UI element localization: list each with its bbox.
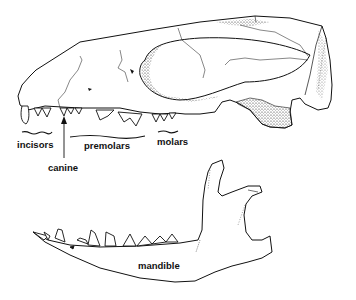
premolars-label: premolars xyxy=(84,141,130,151)
molars-label: molars xyxy=(157,137,188,147)
incisors-label: incisors xyxy=(17,140,53,150)
upper-teeth xyxy=(21,106,176,126)
lower-teeth xyxy=(33,229,178,249)
canine-arrow xyxy=(61,116,67,158)
skull-diagram: incisors premolars molars canine mandibl… xyxy=(0,0,356,300)
mandible-label: mandible xyxy=(138,261,180,271)
stipple-shading xyxy=(88,19,328,128)
label-brackets xyxy=(22,131,178,138)
canine-label: canine xyxy=(48,163,78,173)
premolars-bracket xyxy=(70,136,145,139)
skull-drawing xyxy=(0,0,356,300)
incisors-bracket xyxy=(22,132,52,134)
molars-bracket xyxy=(158,131,178,133)
